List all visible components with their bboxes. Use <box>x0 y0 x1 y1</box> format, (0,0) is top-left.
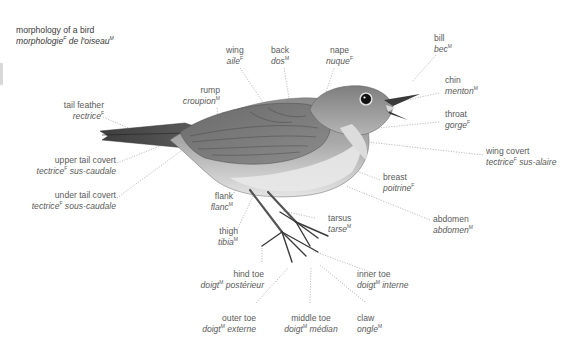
label-wing: wing aileF <box>226 45 244 66</box>
label-inner-toe: inner toe doigtM interne <box>357 269 408 290</box>
label-nape: nape nuqueF <box>326 45 353 66</box>
label-claw: claw ongleM <box>357 313 382 334</box>
label-flank: flank flancM <box>195 191 233 212</box>
label-throat: throat gorgeF <box>445 109 470 130</box>
diagram-title: morphology of a bird morphologieF de l'o… <box>16 25 114 46</box>
label-outer-toe: outer toe doigtM externe <box>200 313 256 334</box>
label-thigh: thigh tibiaM <box>200 226 238 247</box>
label-upper-tail-covert: upper tail covert tectriceF sus-caudale <box>20 155 116 176</box>
title-fr: morphologieF de l'oiseauM <box>16 36 114 47</box>
label-back: back dosM <box>271 45 289 66</box>
label-wing-covert: wing covert tectriceF sus-alaire <box>486 146 556 167</box>
label-breast: breast poitrineF <box>383 172 414 193</box>
label-tarsus: tarsus tarseM <box>328 213 351 234</box>
label-tail-feather: tail feather rectriceF <box>40 100 104 121</box>
label-hind-toe: hind toe doigtM postérieur <box>170 269 264 290</box>
label-under-tail-covert: under tail covert tectriceF sous-caudale <box>16 190 116 211</box>
label-rump: rump croupionM <box>180 85 220 106</box>
label-chin: chin mentonM <box>445 75 478 96</box>
label-bill: bill becM <box>434 33 452 54</box>
bird-morphology-diagram: morphology of a bird morphologieF de l'o… <box>0 0 576 353</box>
label-middle-toe: middle toe doigtM médian <box>280 313 342 334</box>
eye <box>361 94 371 104</box>
label-abdomen: abdomen abdomenM <box>433 214 473 235</box>
